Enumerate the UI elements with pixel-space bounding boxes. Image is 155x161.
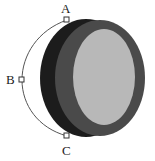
- diagram-canvas: A B C: [0, 0, 155, 161]
- disk-face: [73, 29, 135, 125]
- handle-a[interactable]: [64, 17, 69, 22]
- label-b: B: [6, 72, 15, 87]
- label-c: C: [62, 143, 71, 158]
- label-a: A: [61, 1, 71, 16]
- handle-c[interactable]: [64, 133, 69, 138]
- disk-diagram: A B C: [0, 0, 155, 161]
- handle-b[interactable]: [19, 77, 24, 82]
